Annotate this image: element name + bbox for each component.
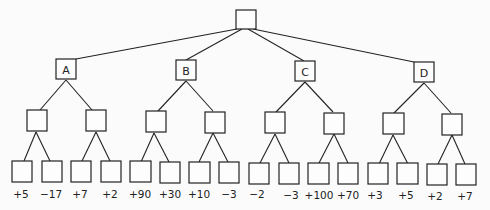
leaf-node [279,163,299,184]
leaf-value: +5 [398,189,413,201]
leaf-value: −2 [249,188,264,200]
level2-node [442,114,462,135]
level2-node [27,110,47,131]
edges-root [76,29,414,62]
leaf-node [368,163,388,184]
leaf-node [308,163,329,184]
leaf-value: +10 [188,188,210,200]
level2-node [324,113,344,134]
leaf-value: +7 [72,188,87,200]
leaf-node [456,164,476,185]
level2-node [146,111,166,132]
level2-node [205,112,225,133]
leaf-node [427,164,447,185]
edges-level1 [40,80,451,113]
leaf-node [12,161,32,182]
leaf-node [249,163,269,184]
leaf-value: +90 [129,188,151,200]
level2-nodes [27,110,462,135]
level1-node-b: B [176,60,196,80]
leaf-value: −3 [221,188,236,200]
level2-node [86,110,106,131]
leaf-node [42,161,62,182]
leaf-value: +100 [305,189,334,201]
node-label: C [301,66,309,79]
leaf-node [397,163,418,184]
leaf-value: −3 [283,189,298,201]
leaf-node [219,162,239,183]
node-label: B [182,65,190,78]
level2-node [383,113,404,134]
leaf-value: +2 [427,190,442,202]
root-node [236,10,256,29]
node-label: A [62,64,70,77]
leaf-value: −17 [40,188,62,200]
leaf-values: +5 −17 +7 +2 +90 +30 +10 −3 −2 −3 +100 +… [13,188,472,202]
leaf-value: +5 [13,188,28,200]
level1-node-a: A [56,59,76,79]
leaf-value: +70 [337,189,359,201]
leaf-node [71,161,91,182]
leaf-nodes [12,161,476,185]
level1-node-c: C [295,61,315,81]
edges-level2 [24,132,465,164]
leaf-value: +3 [367,189,382,201]
level1-node-d: D [414,62,434,82]
leaf-node [130,161,151,182]
leaf-node [101,161,121,182]
game-tree-diagram: A B C D [0,0,490,210]
leaf-node [338,163,358,184]
node-label: D [420,67,428,80]
leaf-value: +7 [457,190,472,202]
leaf-node [189,162,210,183]
leaf-value: +2 [102,188,117,200]
level2-node [265,112,285,133]
leaf-node [160,162,180,183]
leaf-value: +30 [159,188,181,200]
